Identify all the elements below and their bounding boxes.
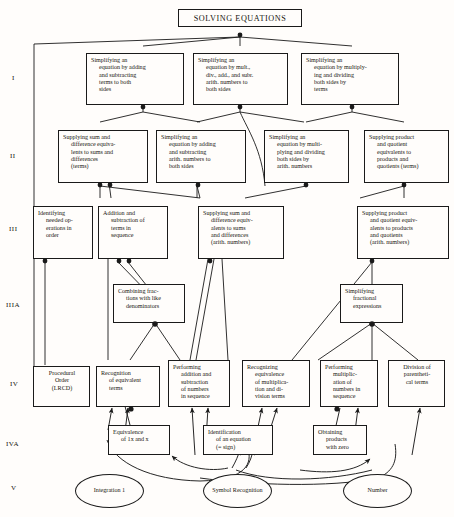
node-ii4[interactable]: Supplying product and quotient equivalen… xyxy=(364,130,449,183)
node-line: of multiplica- xyxy=(247,379,306,386)
node-iiia1[interactable]: Combining frac- tions with like denomina… xyxy=(113,284,185,323)
node-iva2[interactable]: Identification of an equation (= sign) xyxy=(203,425,273,455)
node-line: needed op- xyxy=(38,217,89,224)
node-line: products and xyxy=(369,156,445,163)
node-line: vision terms xyxy=(247,393,306,400)
node-line: terms in xyxy=(103,225,164,232)
node-line: terms xyxy=(306,86,395,93)
node-line: Supplying product xyxy=(362,210,445,217)
node-line: (= sign) xyxy=(208,444,269,451)
node-line: with zero xyxy=(318,444,363,451)
node-iv6[interactable]: Division of parentheti- cal terms xyxy=(388,360,445,407)
node-iv5[interactable]: Performing multiplic- ation of numbers i… xyxy=(320,360,378,407)
node-iiia2[interactable]: Simplifying fractional expressions xyxy=(340,284,403,323)
node-line: Simplifying an xyxy=(91,57,180,64)
node-line: equation by mult., xyxy=(198,64,284,71)
node-line: Simplifying an xyxy=(198,57,284,64)
node-iii2[interactable]: Addition and subtraction of terms in seq… xyxy=(98,206,168,259)
node-i3[interactable]: Simplifying an equation by multiply- ing… xyxy=(301,53,399,105)
node-line: Simplifying xyxy=(345,288,399,295)
node-line: fractional xyxy=(345,295,399,302)
node-iv3[interactable]: Performing addition and subtraction of n… xyxy=(168,360,230,407)
node-v2[interactable]: Symbol Recognition xyxy=(203,474,272,508)
node-line: erations in xyxy=(38,225,89,232)
node-line: equation by multi- xyxy=(269,141,345,148)
node-line: of 1x and x xyxy=(113,436,166,443)
node-line: (arith. numbers) xyxy=(203,239,280,246)
node-iva3[interactable]: Obtaining products with zero xyxy=(313,425,367,455)
node-line: Identification xyxy=(208,429,269,436)
level-label-IV: IV xyxy=(10,380,18,388)
node-line: multiplic- xyxy=(325,371,374,378)
node-line: equation by adding xyxy=(161,141,242,148)
level-label-IVA: IVA xyxy=(6,440,19,448)
level-label-V: V xyxy=(11,484,17,492)
level-label-I: I xyxy=(12,74,15,82)
node-line: and subtracting xyxy=(91,72,180,79)
node-line: sequence xyxy=(325,393,374,400)
node-line: Identifying xyxy=(38,210,89,217)
node-line: cal terms xyxy=(393,379,441,386)
node-line: Number xyxy=(368,487,388,494)
node-line: and quotient xyxy=(369,141,445,148)
node-ii2[interactable]: Simplifying an equation by adding and su… xyxy=(156,130,246,183)
node-line: equation by multiply- xyxy=(306,64,395,71)
node-iii4[interactable]: Supplying product and quotient equiv- al… xyxy=(357,206,449,259)
node-line: Recognizing xyxy=(247,364,306,371)
level-label-II: II xyxy=(10,152,16,160)
node-ii3[interactable]: Simplifying an equation by multi- plying… xyxy=(264,130,349,183)
node-line: equation by adding xyxy=(91,64,180,71)
node-iii1[interactable]: Identifying needed op- erations in order xyxy=(33,206,93,259)
node-line: Division of xyxy=(393,364,441,371)
node-line: Simplifying an xyxy=(161,134,242,141)
node-line: Recognition xyxy=(233,487,263,493)
node-iva1[interactable]: Equivalence of 1x and x xyxy=(108,425,170,455)
node-v3[interactable]: Number xyxy=(343,474,412,508)
node-solving-equations[interactable]: SOLVING EQUATIONS xyxy=(178,9,302,27)
node-line: ation of xyxy=(325,379,374,386)
node-line: ing and dividing xyxy=(306,72,395,79)
node-line: differences xyxy=(63,156,144,163)
node-line: tions with like xyxy=(118,295,181,302)
node-line: Performing xyxy=(325,364,374,371)
node-iii3[interactable]: Supplying sum and difference equiv- alen… xyxy=(198,206,284,259)
node-line: Addition and xyxy=(103,210,164,217)
node-v1[interactable]: Integration 1 xyxy=(75,474,144,508)
level-label-IIIA: IIIA xyxy=(6,301,20,309)
node-line: of numbers xyxy=(173,386,226,393)
node-line: both sides xyxy=(198,86,284,93)
node-ii1[interactable]: Supplying sum and difference equiva- len… xyxy=(58,130,148,183)
node-line: Obtaining xyxy=(318,429,363,436)
node-line: (arith. numbers) xyxy=(362,239,445,246)
node-iv1[interactable]: Procedural Order (LRCD) xyxy=(33,366,90,407)
node-line: order xyxy=(38,232,89,239)
node-line: difference equiv- xyxy=(203,217,280,224)
node-iv4[interactable]: Recognizing equivalence of multiplica- t… xyxy=(242,360,310,407)
node-line: Simplifying an xyxy=(269,134,345,141)
node-line: and differences xyxy=(203,232,280,239)
node-i2[interactable]: Simplifying an equation by mult., div., … xyxy=(193,53,288,105)
node-line: (terms) xyxy=(63,163,144,170)
node-line: terms to both xyxy=(91,79,180,86)
node-i1[interactable]: Simplifying an equation by adding and su… xyxy=(86,53,184,105)
node-line: equivalence xyxy=(247,371,306,378)
node-line: Equivalence xyxy=(113,429,166,436)
node-line: addition and xyxy=(173,371,226,378)
node-line: Simplifying an xyxy=(306,57,395,64)
level-label-III: III xyxy=(9,225,18,233)
node-line: alents to sums xyxy=(203,225,280,232)
node-line: difference equiva- xyxy=(63,141,144,148)
node-line: subtraction xyxy=(173,379,226,386)
node-line: and quotient equiv- xyxy=(362,217,445,224)
node-line: sequence xyxy=(103,232,164,239)
node-line: both sides by xyxy=(306,79,395,86)
node-line: terms xyxy=(101,385,156,392)
node-line: parentheti- xyxy=(393,371,441,378)
node-iv2[interactable]: Recognition of equivalent terms xyxy=(96,366,160,407)
node-line: subtraction of xyxy=(103,217,164,224)
node-line: Symbol xyxy=(212,487,231,493)
node-line: denominators xyxy=(118,303,181,310)
node-line: both sides xyxy=(161,163,242,170)
node-line: Procedural xyxy=(38,370,86,377)
node-line: alents to products xyxy=(362,225,445,232)
